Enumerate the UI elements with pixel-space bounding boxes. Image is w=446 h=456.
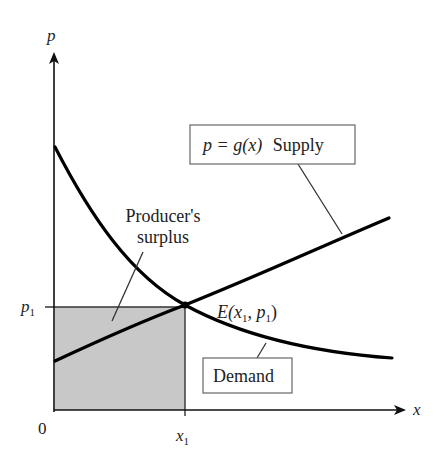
surplus-label-line2: surplus — [137, 227, 189, 247]
x-axis-label: x — [412, 400, 421, 419]
supply-curve — [55, 218, 389, 361]
diagram-canvas: p = g(x) Supply Demand Producer's surplu… — [0, 0, 446, 456]
p1-tick-label: p1 — [20, 297, 35, 318]
shaded-region — [55, 307, 185, 410]
demand-label: Demand — [213, 366, 274, 386]
origin-label: 0 — [38, 419, 47, 438]
surplus-label-line1: Producer's — [125, 206, 200, 226]
y-axis-label: p — [46, 26, 56, 45]
demand-leader-line — [257, 343, 266, 358]
supply-label: p = g(x) Supply — [201, 135, 324, 156]
equilibrium-label: E(x1, p1) — [216, 302, 277, 324]
x1-tick-label: x1 — [175, 426, 189, 447]
supply-leader-line — [298, 164, 342, 234]
equilibrium-point — [182, 302, 189, 309]
